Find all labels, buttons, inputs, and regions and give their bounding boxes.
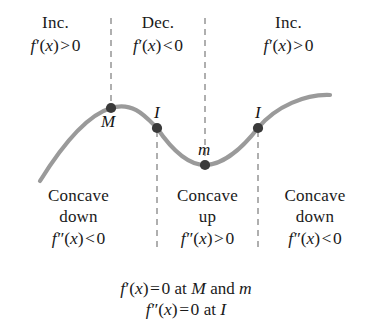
relational-operator: < bbox=[84, 228, 97, 248]
point-inflection-right bbox=[253, 123, 263, 133]
close-paren: ) bbox=[172, 299, 178, 319]
variable-symbol: x bbox=[164, 299, 172, 319]
caption-point-minimum: m bbox=[239, 278, 252, 298]
function-curve bbox=[40, 95, 330, 181]
comparison-value: 0 bbox=[191, 299, 200, 319]
comparison-value: 0 bbox=[225, 228, 234, 248]
equals-operator: = bbox=[149, 278, 162, 298]
label-maximum: M bbox=[101, 112, 115, 132]
close-paren: ) bbox=[143, 278, 149, 298]
caption-first-derivative: f′(x)=0 at M and m bbox=[0, 278, 372, 299]
comparison-value: 0 bbox=[333, 228, 342, 248]
concavity-word-middle: Concave bbox=[157, 187, 258, 205]
caption-point-maximum: M bbox=[191, 278, 206, 298]
double-prime-symbol: ″ bbox=[294, 228, 301, 248]
calculus-curve-figure: Inc. Dec. Inc. f′(x)>0 f′(x)<0 f′(x)>0 M… bbox=[0, 0, 372, 331]
label-inflection-right: I bbox=[255, 103, 261, 123]
second-derivative-row: f″(x)<0 f″(x)>0 f″(x)<0 bbox=[0, 229, 372, 247]
close-paren: ) bbox=[78, 228, 84, 248]
point-inflection-left bbox=[152, 123, 162, 133]
at-word: at bbox=[175, 279, 187, 298]
point-minimum bbox=[200, 160, 210, 170]
variable-symbol: x bbox=[135, 278, 143, 298]
comparison-value: 0 bbox=[96, 228, 105, 248]
label-inflection-left: I bbox=[154, 103, 160, 123]
equals-operator: = bbox=[178, 299, 191, 319]
caption-point-inflection: I bbox=[220, 299, 226, 319]
concavity-direction-row: down up down bbox=[0, 208, 372, 226]
at-word: at bbox=[204, 300, 216, 319]
relational-operator: < bbox=[320, 228, 333, 248]
relational-operator: > bbox=[213, 228, 226, 248]
second-derivative-left: f″(x)<0 bbox=[0, 229, 157, 247]
second-derivative-right: f″(x)<0 bbox=[258, 229, 372, 247]
comparison-value: 0 bbox=[161, 278, 170, 298]
and-word: and bbox=[210, 279, 235, 298]
close-paren: ) bbox=[207, 228, 213, 248]
second-derivative-middle: f″(x)>0 bbox=[157, 229, 258, 247]
caption-second-derivative: f″(x)=0 at I bbox=[0, 299, 372, 320]
concavity-direction-middle: up bbox=[157, 208, 258, 226]
concavity-word-left: Concave bbox=[0, 187, 157, 205]
concavity-word-right: Concave bbox=[258, 187, 372, 205]
variable-symbol: x bbox=[70, 228, 78, 248]
concavity-direction-left: down bbox=[0, 208, 157, 226]
label-minimum: m bbox=[198, 140, 210, 160]
concavity-direction-right: down bbox=[258, 208, 372, 226]
concavity-word-row: Concave Concave Concave bbox=[0, 187, 372, 205]
variable-symbol: x bbox=[199, 228, 207, 248]
